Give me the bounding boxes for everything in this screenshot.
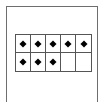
ten-frame-cell xyxy=(61,53,76,71)
ten-frame-cell xyxy=(61,35,76,53)
ten-frame-cell xyxy=(76,35,91,53)
dot-icon xyxy=(49,58,56,65)
ten-frame-cell xyxy=(76,53,91,71)
ten-frame-cell xyxy=(31,53,46,71)
dot-icon xyxy=(49,40,56,47)
ten-frame-cell xyxy=(46,53,61,71)
dot-icon xyxy=(19,58,26,65)
dot-icon xyxy=(80,40,87,47)
dot-icon xyxy=(34,40,41,47)
ten-frame-cell xyxy=(16,35,31,53)
dot-icon xyxy=(34,58,41,65)
dot-icon xyxy=(64,40,71,47)
dot-icon xyxy=(19,40,26,47)
ten-frame-cell xyxy=(16,53,31,71)
ten-frame-cell xyxy=(31,35,46,53)
ten-frame-cell xyxy=(46,35,61,53)
ten-frame-grid xyxy=(15,34,92,72)
